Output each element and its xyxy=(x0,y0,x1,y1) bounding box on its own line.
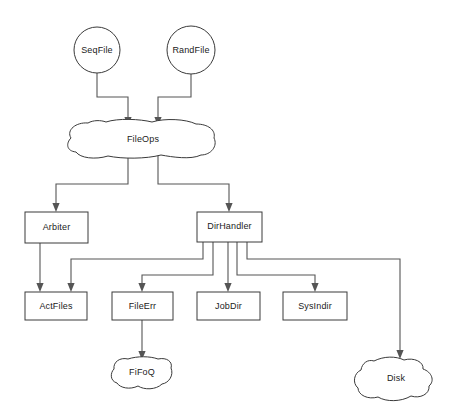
edge-fileerr-to-fifoq xyxy=(138,320,145,360)
node-fileops[interactable]: FileOps xyxy=(68,119,215,158)
node-fileerr[interactable]: FileErr xyxy=(112,292,173,320)
node-actfiles[interactable]: ActFiles xyxy=(25,292,87,320)
fileops-label: FileOps xyxy=(127,134,159,144)
actfiles-label: ActFiles xyxy=(39,301,73,311)
node-arbiter[interactable]: Arbiter xyxy=(25,212,88,243)
edge-seqfile-to-fileops xyxy=(97,73,132,126)
edge-dirhandler-to-actfiles xyxy=(67,242,203,292)
node-randfile[interactable]: RandFile xyxy=(167,26,215,74)
jobdir-label: JobDir xyxy=(215,301,242,311)
randfile-label: RandFile xyxy=(172,45,209,55)
edge-dirhandler-to-sysindir xyxy=(237,242,319,292)
dirhandler-label: DirHandler xyxy=(207,221,252,231)
node-dirhandler[interactable]: DirHandler xyxy=(197,212,262,242)
edge-fileops-to-dirhandler xyxy=(158,155,233,212)
node-disk[interactable]: Disk xyxy=(354,357,432,401)
edge-dirhandler-to-fileerr xyxy=(138,242,213,292)
node-fifoq[interactable]: FiFoQ xyxy=(111,357,172,389)
node-seqfile[interactable]: SeqFile xyxy=(74,27,120,73)
fileerr-label: FileErr xyxy=(129,301,157,311)
edge-fileops-to-arbiter xyxy=(52,155,128,212)
sysindir-label: SysIndir xyxy=(298,301,332,311)
diagram-canvas: SeqFile RandFile FileOps Arbiter DirHand… xyxy=(0,0,460,420)
arbiter-label: Arbiter xyxy=(43,222,71,232)
node-layer: SeqFile RandFile FileOps Arbiter DirHand… xyxy=(25,26,432,401)
edge-randfile-to-fileops xyxy=(154,74,191,126)
disk-label: Disk xyxy=(387,373,405,383)
edge-arbiter-to-actfiles xyxy=(36,243,43,292)
fifoq-label: FiFoQ xyxy=(129,367,155,377)
seqfile-label: SeqFile xyxy=(81,45,113,55)
node-jobdir[interactable]: JobDir xyxy=(197,292,260,320)
edge-dirhandler-to-jobdir xyxy=(224,242,231,292)
node-sysindir[interactable]: SysIndir xyxy=(283,292,347,320)
diagram-graphic: SeqFile RandFile FileOps Arbiter DirHand… xyxy=(0,0,460,420)
